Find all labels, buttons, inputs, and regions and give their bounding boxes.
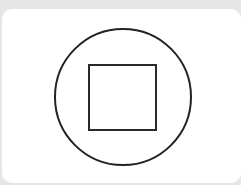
stop-icon [88,64,157,131]
